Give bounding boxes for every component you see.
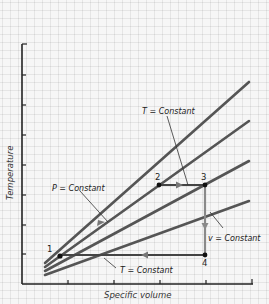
point-4-label: 4 — [202, 258, 207, 268]
y-axis-label: Temperature — [5, 146, 15, 200]
arrow-left-icon — [141, 252, 148, 259]
v-constant-label: v = Constant — [208, 234, 261, 243]
point-2 — [157, 183, 162, 188]
state-points — [57, 183, 207, 259]
point-3 — [203, 183, 208, 188]
isobar-line-2 — [45, 121, 249, 267]
t-constant-top-label: T = Constant — [142, 107, 196, 116]
t-constant-bottom-label: T = Constant — [120, 266, 174, 275]
arrow-down-icon — [202, 223, 209, 230]
point-1-label: 1 — [47, 244, 52, 254]
point-4 — [203, 253, 208, 258]
p-constant-label: P = Constant — [52, 184, 105, 193]
point-1 — [57, 253, 62, 258]
axes — [22, 44, 253, 284]
point-2-label: 2 — [155, 172, 160, 182]
thermodynamic-diagram: 1 2 3 4 P = Constant T = Constant v = Co… — [0, 0, 269, 304]
x-axis-label: Specific volume — [104, 290, 171, 300]
arrow-right-icon — [176, 182, 183, 189]
point-3-label: 3 — [201, 172, 206, 182]
